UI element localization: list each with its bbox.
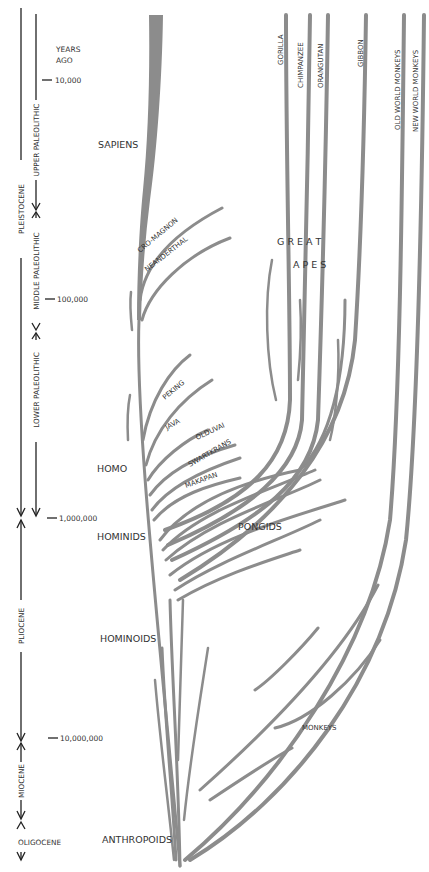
label-chimpanzee: CHIMPANZEE	[297, 42, 305, 88]
label-apes: A P E S	[293, 259, 326, 270]
epoch-pleistocene: PLEISTOCENE	[17, 184, 26, 234]
label-orangutan: ORANGUTAN	[317, 44, 325, 88]
label-hominoids: HOMINOIDS	[100, 633, 156, 644]
culture-upper-paleolithic: UPPER PALEOLITHIC	[32, 104, 41, 177]
label-pongids: PONGIDS	[238, 521, 282, 532]
epoch-miocene: MIOCENE	[17, 764, 26, 798]
label-monkeys: MONKEYS	[302, 724, 337, 732]
culture-lower-paleolithic: LOWER PALEOLITHIC	[32, 352, 41, 428]
years-header-2: AGO	[56, 56, 73, 65]
branch-sapiens-fill	[137, 15, 163, 320]
tick-10000: 10,000	[55, 76, 81, 85]
epoch-pliocene: PLIOCENE	[17, 608, 26, 645]
epoch-oligocene: OLIGOCENE	[18, 838, 62, 847]
label-sapiens: SAPIENS	[98, 139, 138, 150]
years-header-1: YEARS	[55, 45, 81, 54]
tick-10000000: 10,000,000	[60, 734, 103, 743]
tree-branches	[128, 15, 424, 866]
label-anthropoids: ANTHROPOIDS	[102, 834, 172, 845]
label-java: JAVA	[163, 417, 181, 432]
label-hominids: HOMINIDS	[97, 531, 146, 542]
tick-100000: 100,000	[57, 295, 88, 304]
tick-1000000: 1,000,000	[59, 514, 97, 523]
primate-evolution-diagram: PLEISTOCENE PLIOCENE MIOCENE OLIGOCENE U…	[0, 0, 429, 872]
label-olduvai: OLDUVAI	[194, 421, 226, 441]
culture-middle-paleolithic: MIDDLE PALEOLITHIC	[32, 232, 41, 309]
label-gorilla: GORILLA	[277, 34, 285, 65]
label-great: G R E A T	[277, 236, 322, 247]
label-new-world-monkeys: NEW WORLD MONKEYS	[412, 49, 420, 132]
label-old-world-monkeys: OLD WORLD MONKEYS	[394, 49, 402, 130]
label-homo: HOMO	[97, 463, 127, 474]
label-gibbon: GIBBON	[357, 39, 365, 67]
epoch-axis	[17, 8, 25, 860]
